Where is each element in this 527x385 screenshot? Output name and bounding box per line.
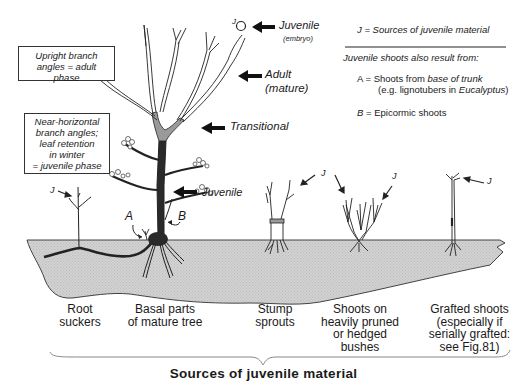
caption-line: bushes [315, 341, 405, 354]
caption-line: Basal parts [115, 303, 215, 316]
caption-line: Root [50, 303, 110, 316]
caption-root-suckers: Root suckers [50, 303, 110, 328]
label-j-embryo: J [232, 18, 236, 26]
caption-line: or hedged [315, 328, 405, 341]
caption-grafted-shoots: Grafted shoots (especially if serially g… [412, 303, 527, 353]
legend-a-line1: A = Shoots from base of trunk [357, 73, 508, 84]
label-j-graft: J [487, 177, 492, 186]
legend-a2-suffix: ) [505, 84, 508, 95]
label-j-stump: J [321, 169, 326, 178]
caption-line: sprouts [245, 316, 305, 329]
box-line: Near-horizontal [29, 116, 105, 127]
caption-line: Stump [245, 303, 305, 316]
adult-branches [99, 25, 245, 122]
tree-trunk-juvenile [150, 141, 166, 244]
box-line: leaf retention [29, 138, 105, 149]
figure-title: Sources of juvenile material [0, 366, 527, 381]
box-line: = juvenile phase [29, 160, 105, 171]
legend-a2-italic: Eucalyptus [459, 84, 505, 95]
label-a: A [125, 210, 133, 222]
legend-a-line2: (e.g. lignotubers in Eucalyptus) [378, 84, 508, 95]
box-line: branch angles; [29, 127, 105, 138]
curved-arrow-icon [133, 225, 142, 237]
label-adult: Adult [265, 69, 291, 81]
caption-line: of mature tree [115, 316, 215, 329]
label-juvenile-embryo: Juvenile [279, 20, 319, 31]
label-embryo-sub: (embryo) [283, 35, 313, 43]
legend-a2-prefix: (e.g. lignotubers in [378, 84, 459, 95]
label-b: B [178, 210, 186, 222]
arrow-left-icon [173, 21, 275, 198]
embryo-circle-icon [237, 22, 246, 31]
legend-b-line: B = Epicormic shoots [357, 107, 508, 118]
caption-line: Grafted shoots [412, 303, 527, 316]
caption-line: serially grafted: [412, 328, 527, 341]
label-adult-sub: (mature) [265, 83, 308, 95]
label-transitional: Transitional [230, 121, 289, 133]
legend-also-heading: Juvenile shoots also result from: [343, 52, 508, 63]
diagram-canvas: Upright branch angles = adult phase Near… [0, 0, 527, 385]
box-line: in winter [29, 149, 105, 160]
legend-b-rest: = Epicormic shoots [363, 107, 446, 118]
caption-pruned-bushes: Shoots on heavily pruned or hedged bushe… [315, 303, 405, 353]
caption-line: see Fig.81) [412, 341, 527, 354]
label-j-root: J [50, 186, 55, 195]
box-line: angles = adult phase [23, 61, 110, 83]
label-j-bush: J [392, 172, 397, 181]
legend-j-definition: J = Sources of juvenile material [357, 24, 508, 35]
root-sucker-shoot [69, 187, 91, 248]
box-line: Upright branch [23, 50, 110, 61]
juvenile-phase-box: Near-horizontal branch angles; leaf rete… [24, 113, 110, 174]
legend-a-prefix: A = Shoots from [357, 73, 428, 84]
caption-stump-sprouts: Stump sprouts [245, 303, 305, 328]
caption-line: Shoots on [315, 303, 405, 316]
caption-line: suckers [50, 316, 110, 329]
legend-a-italic: base of trunk [428, 73, 483, 84]
label-juvenile-trunk: Juvenile [202, 187, 242, 198]
legend: J = Sources of juvenile material Juvenil… [343, 24, 508, 118]
adult-phase-box: Upright branch angles = adult phase [18, 46, 115, 81]
caption-basal-parts: Basal parts of mature tree [115, 303, 215, 328]
